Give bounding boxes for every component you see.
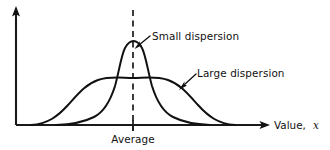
x-axis-label: Value, bbox=[274, 119, 306, 131]
small-dispersion-annotation: Small dispersion bbox=[135, 30, 240, 49]
small-dispersion-label: Small dispersion bbox=[152, 30, 239, 42]
small-dispersion-leader-line bbox=[139, 36, 150, 45]
average-label: Average bbox=[111, 133, 154, 145]
dispersion-figure: Value, x Small dispersion Large dispersi… bbox=[0, 0, 330, 150]
y-axis bbox=[12, 6, 20, 125]
dispersion-chart-canvas: Value, x Small dispersion Large dispersi… bbox=[0, 0, 330, 150]
x-axis-variable-label: x bbox=[313, 119, 319, 131]
large-dispersion-label: Large dispersion bbox=[197, 67, 285, 79]
large-dispersion-leader-line bbox=[184, 74, 196, 85]
large-dispersion-annotation: Large dispersion bbox=[179, 67, 285, 90]
